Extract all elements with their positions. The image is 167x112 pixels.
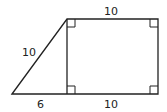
right-angle-marker-top-right — [150, 19, 158, 27]
right-angle-marker-bottom-right — [150, 86, 158, 94]
trapezoid-diagram: 10 10 6 10 — [0, 0, 167, 112]
label-bottom-right: 10 — [104, 98, 118, 111]
right-angle-marker-top-left — [67, 19, 75, 27]
label-hypotenuse: 10 — [22, 46, 36, 59]
right-angle-marker-bottom-left — [67, 86, 75, 94]
label-bottom-left: 6 — [37, 98, 44, 111]
label-top-side: 10 — [104, 5, 118, 18]
